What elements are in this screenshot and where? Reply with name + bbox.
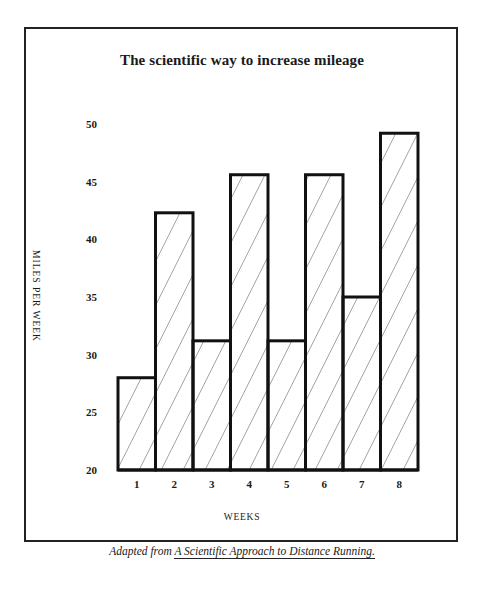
x-axis-label: WEEKS xyxy=(0,512,484,522)
bar-week-1 xyxy=(118,378,156,470)
bar-week-5 xyxy=(268,341,306,470)
bar-week-7 xyxy=(343,297,381,470)
bar-plot-area xyxy=(0,0,484,595)
source-prefix: Adapted from xyxy=(109,545,174,557)
bar-week-2 xyxy=(156,213,194,470)
bars-group xyxy=(118,133,418,470)
bar-week-4 xyxy=(231,175,269,470)
bar-week-6 xyxy=(306,175,344,470)
source-note: Adapted from A Scientific Approach to Di… xyxy=(0,545,484,557)
bar-week-8 xyxy=(381,133,419,470)
bar-week-3 xyxy=(193,341,231,470)
source-book-title: A Scientific Approach to Distance Runnin… xyxy=(174,545,374,559)
